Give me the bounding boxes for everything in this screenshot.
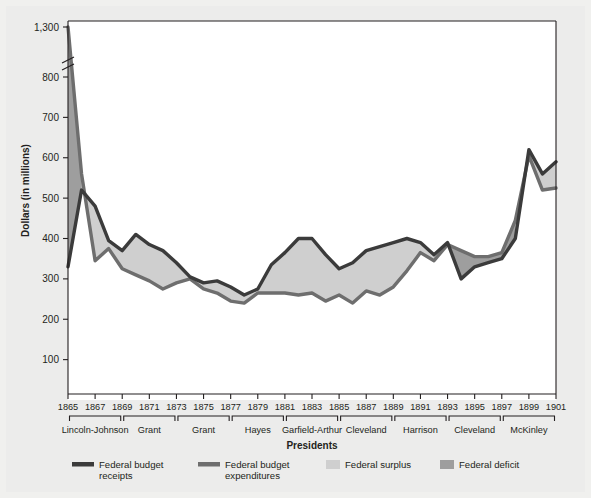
president-bracket [449,416,500,421]
president-bracket [232,416,283,421]
x-tick-label: 1891 [410,402,430,412]
y-tick-label: 400 [42,233,59,244]
x-tick-label: 1889 [383,402,403,412]
president-label: Garfield-Arthur [282,425,342,435]
president-label: Grant [192,425,215,435]
x-tick-label: 1881 [275,402,295,412]
chart-frame: 1,30080070060050040030020010018651867186… [6,6,585,492]
legend-label: Federal surplus [345,459,411,470]
president-label: Cleveland [454,425,495,435]
x-tick-label: 1899 [519,402,539,412]
y-tick-label: 600 [42,152,59,163]
x-tick-label: 1887 [356,402,376,412]
x-tick-label: 1883 [302,402,322,412]
legend-color-swatch [326,460,340,469]
x-tick-label: 1897 [492,402,512,412]
president-bracket [178,416,229,421]
x-tick-label: 1867 [85,402,105,412]
x-tick-label: 1879 [248,402,268,412]
x-axis-title: Presidents [286,440,338,451]
president-bracket [341,416,392,421]
y-tick-label: 300 [42,273,59,284]
x-tick-label: 1871 [139,402,159,412]
president-label: Lincoln-Johnson [62,425,129,435]
x-tick-label: 1895 [464,402,484,412]
legend-label: Federal budget [225,459,290,470]
legend-label: Federal budget [99,459,164,470]
president-bracket [70,416,121,421]
legend-line-swatch [72,462,94,467]
president-bracket [503,416,554,421]
president-label: Hayes [245,425,271,435]
y-tick-label: 100 [42,354,59,365]
president-bracket [286,416,337,421]
budget-chart: 1,30080070060050040030020010018651867186… [6,6,585,492]
legend-label: expenditures [225,470,280,481]
x-tick-label: 1901 [546,402,566,412]
x-tick-label: 1893 [437,402,457,412]
x-tick-label: 1869 [112,402,132,412]
x-tick-label: 1865 [58,402,78,412]
legend-item: Federal surplus [326,459,411,470]
y-tick-label: 800 [42,72,59,83]
president-bracket [124,416,175,421]
legend-color-swatch [440,460,454,469]
president-bracket [395,416,446,421]
y-axis-title: Dollars (in millions) [20,144,31,237]
legend-item: Federal budgetreceipts [72,459,164,481]
legend-label: receipts [99,470,133,481]
legend-label: Federal deficit [459,459,520,470]
y-tick-label: 700 [42,112,59,123]
x-tick-label: 1873 [166,402,186,412]
chart-figure: 1,30080070060050040030020010018651867186… [0,0,591,498]
president-label: Grant [138,425,161,435]
y-tick-label: 200 [42,314,59,325]
legend-item: Federal deficit [440,459,520,470]
president-label: Harrison [403,425,438,435]
y-tick-label: 1,300 [34,22,59,33]
president-label: McKinley [510,425,548,435]
x-tick-label: 1875 [193,402,213,412]
legend-item: Federal budgetexpenditures [198,459,290,481]
y-tick-label: 500 [42,193,59,204]
president-label: Cleveland [346,425,387,435]
x-tick-label: 1877 [220,402,240,412]
x-tick-label: 1885 [329,402,349,412]
legend-line-swatch [198,462,220,467]
plot-background [68,21,556,400]
